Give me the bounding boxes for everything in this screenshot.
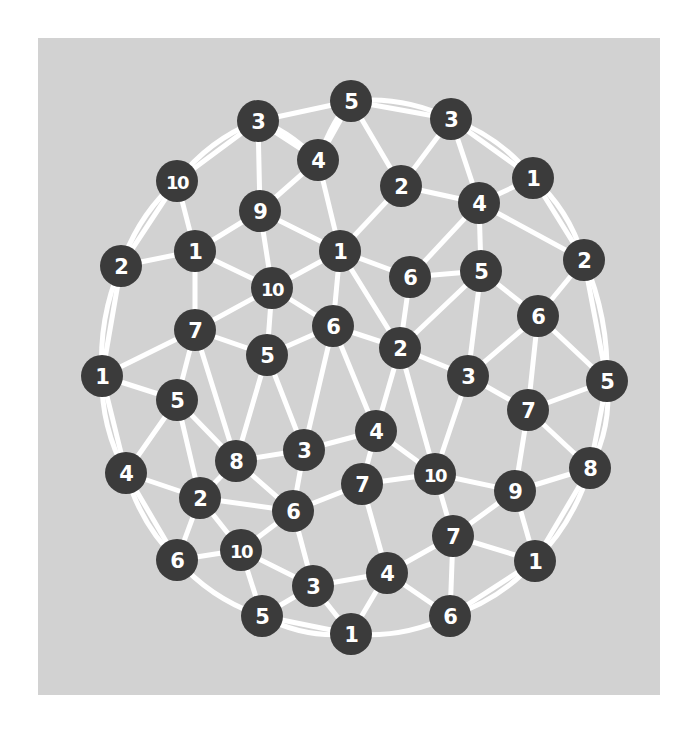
graph-visualization-page: 5331042194211102657616523557834410827691…: [0, 0, 697, 732]
node-label: 6: [286, 500, 300, 524]
node-label: 7: [355, 473, 369, 497]
node-label: 6: [170, 549, 184, 573]
graph-node[interactable]: 4: [355, 410, 397, 452]
node-label: 7: [446, 525, 460, 549]
graph-node[interactable]: 2: [179, 477, 221, 519]
node-label: 10: [166, 172, 189, 193]
graph-node[interactable]: 4: [366, 552, 408, 594]
graph-node[interactable]: 3: [430, 98, 472, 140]
graph-node[interactable]: 1: [330, 613, 372, 655]
node-label: 9: [508, 480, 522, 504]
node-label: 3: [306, 575, 320, 599]
graph-node[interactable]: 2: [100, 245, 142, 287]
node-label: 5: [255, 605, 269, 629]
node-label: 7: [521, 399, 535, 423]
node-label: 4: [380, 562, 394, 586]
graph-node[interactable]: 8: [569, 447, 611, 489]
node-label: 2: [393, 337, 407, 361]
graph-node[interactable]: 5: [246, 334, 288, 376]
node-label: 5: [600, 370, 614, 394]
node-label: 10: [230, 541, 253, 562]
node-label: 2: [114, 255, 128, 279]
node-label: 1: [95, 365, 109, 389]
graph-node[interactable]: 6: [517, 295, 559, 337]
node-label: 5: [344, 90, 358, 114]
graph-node[interactable]: 3: [292, 565, 334, 607]
node-label: 8: [229, 450, 243, 474]
node-label: 6: [443, 605, 457, 629]
graph-node[interactable]: 1: [174, 230, 216, 272]
graph-node[interactable]: 1: [512, 157, 554, 199]
node-label: 5: [170, 389, 184, 413]
node-label: 8: [583, 457, 597, 481]
graph-node[interactable]: 10: [414, 453, 456, 495]
graph-node[interactable]: 2: [379, 327, 421, 369]
graph-node[interactable]: 10: [251, 267, 293, 309]
graph-node[interactable]: 3: [283, 429, 325, 471]
graph-node[interactable]: 5: [586, 360, 628, 402]
graph-node[interactable]: 10: [220, 529, 262, 571]
graph-node[interactable]: 1: [319, 230, 361, 272]
node-label: 5: [474, 260, 488, 284]
node-label: 6: [326, 315, 340, 339]
graph-node[interactable]: 7: [507, 389, 549, 431]
node-label: 10: [424, 465, 447, 486]
node-label: 1: [344, 623, 358, 647]
node-label: 1: [188, 240, 202, 264]
node-label: 2: [193, 487, 207, 511]
node-label: 4: [311, 149, 325, 173]
node-label: 4: [472, 192, 486, 216]
node-label: 10: [261, 279, 284, 300]
graph-node[interactable]: 4: [105, 452, 147, 494]
graph-node[interactable]: 10: [156, 160, 198, 202]
graph-node[interactable]: 5: [241, 595, 283, 637]
node-label: 3: [297, 439, 311, 463]
node-label: 1: [528, 550, 542, 574]
graph-node[interactable]: 6: [272, 490, 314, 532]
graph-node[interactable]: 9: [239, 190, 281, 232]
graph-node[interactable]: 6: [312, 305, 354, 347]
node-label: 3: [461, 365, 475, 389]
graph-node[interactable]: 7: [174, 309, 216, 351]
node-label: 2: [577, 249, 591, 273]
node-label: 3: [251, 110, 265, 134]
graph-node[interactable]: 6: [389, 256, 431, 298]
graph-node[interactable]: 5: [156, 379, 198, 421]
node-label: 2: [394, 175, 408, 199]
node-label: 1: [526, 167, 540, 191]
graph-node[interactable]: 7: [341, 463, 383, 505]
network-graph[interactable]: 5331042194211102657616523557834410827691…: [38, 38, 660, 695]
graph-node[interactable]: 5: [460, 250, 502, 292]
node-label: 5: [260, 344, 274, 368]
graph-node[interactable]: 3: [237, 100, 279, 142]
node-label: 4: [119, 462, 133, 486]
graph-node[interactable]: 4: [297, 139, 339, 181]
graph-node[interactable]: 3: [447, 355, 489, 397]
graph-node[interactable]: 5: [330, 80, 372, 122]
graph-node[interactable]: 7: [432, 515, 474, 557]
node-label: 7: [188, 319, 202, 343]
node-label: 9: [253, 200, 267, 224]
graph-node[interactable]: 1: [514, 540, 556, 582]
graph-node[interactable]: 4: [458, 182, 500, 224]
graph-node[interactable]: 1: [81, 355, 123, 397]
graph-node[interactable]: 2: [380, 165, 422, 207]
graph-node[interactable]: 9: [494, 470, 536, 512]
node-label: 6: [531, 305, 545, 329]
graph-node[interactable]: 6: [429, 595, 471, 637]
graph-node[interactable]: 2: [563, 239, 605, 281]
node-label: 4: [369, 420, 383, 444]
graph-node[interactable]: 8: [215, 440, 257, 482]
graph-node[interactable]: 6: [156, 539, 198, 581]
nodes-layer: 5331042194211102657616523557834410827691…: [81, 80, 628, 655]
graph-canvas-panel: 5331042194211102657616523557834410827691…: [38, 38, 660, 695]
node-label: 1: [333, 240, 347, 264]
node-label: 3: [444, 108, 458, 132]
node-label: 6: [403, 266, 417, 290]
